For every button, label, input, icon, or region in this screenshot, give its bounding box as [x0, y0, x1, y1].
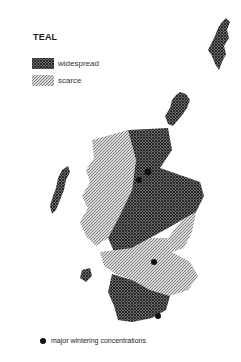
map-title: TEAL [33, 32, 57, 42]
orkney-region [165, 92, 190, 126]
outer-hebrides-region [50, 166, 70, 214]
legend-widespread: widespread [32, 58, 99, 69]
scotland-distribution-map [0, 0, 241, 362]
widespread-swatch-icon [32, 58, 54, 69]
legend-scarce: scarce [32, 75, 82, 86]
legend-label-scarce: scarce [58, 76, 82, 85]
footer-legend: major wintering concentrations [40, 337, 146, 344]
wintering-dot-icon [40, 338, 46, 344]
wintering-dot-3 [151, 259, 157, 265]
footer-legend-label: major wintering concentrations [51, 337, 146, 344]
inner-isles-region [80, 268, 92, 282]
shetland-region [208, 18, 230, 70]
scarce-swatch-icon [32, 75, 54, 86]
legend-label-widespread: widespread [58, 59, 99, 68]
wintering-dot-4 [155, 313, 161, 319]
wintering-dot-1 [145, 169, 152, 176]
wintering-dot-2 [136, 177, 142, 183]
